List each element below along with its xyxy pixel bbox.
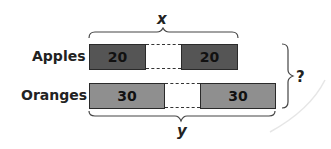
row-label-apples: Apples — [32, 48, 86, 64]
oranges-dash-top — [165, 83, 200, 84]
oranges-segment-1: 30 — [89, 83, 165, 109]
top-variable-label: x — [157, 10, 167, 28]
row-label-oranges: Oranges — [21, 87, 87, 103]
bottom-brace-icon — [89, 111, 275, 121]
question-label: ? — [296, 68, 305, 86]
decorative-arc — [270, 80, 325, 132]
top-brace-icon — [89, 28, 238, 38]
oranges-dash-bottom — [165, 107, 200, 108]
apples-segment-1: 20 — [89, 44, 146, 70]
apples-dash-bottom — [146, 68, 181, 69]
oranges-segment-2: 30 — [200, 83, 276, 109]
apples-segment-2: 20 — [181, 44, 238, 70]
bottom-variable-label: y — [177, 122, 187, 140]
apples-dash-top — [146, 44, 181, 45]
right-brace-icon — [282, 44, 293, 108]
